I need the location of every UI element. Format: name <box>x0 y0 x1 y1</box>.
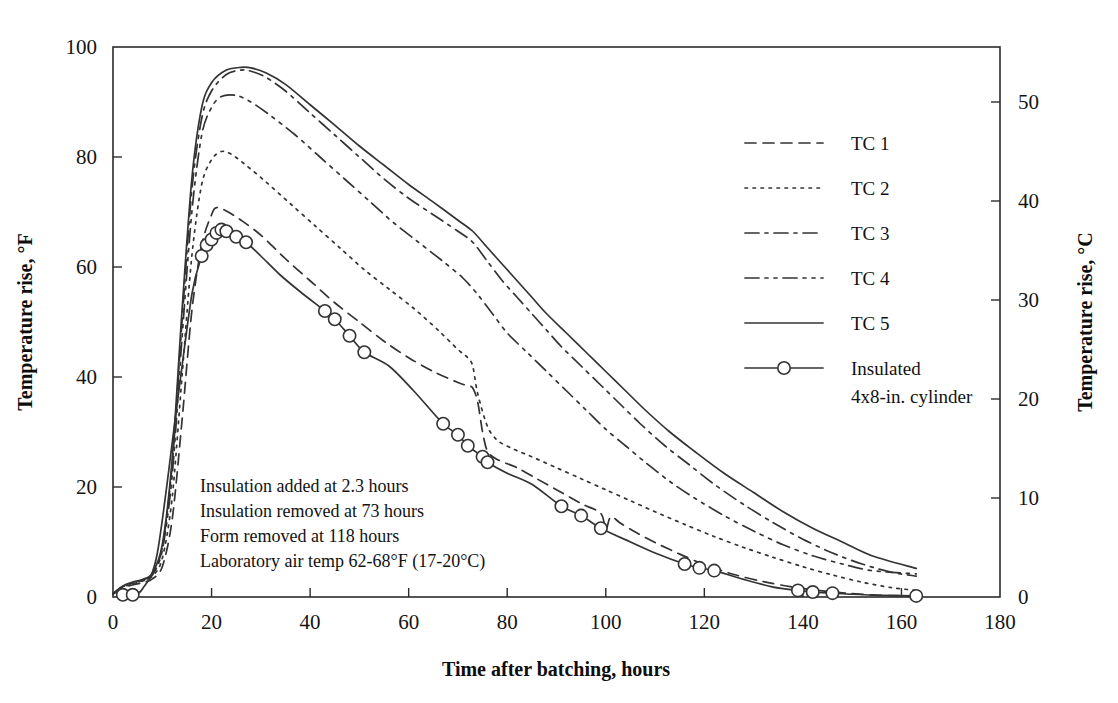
legend-label-5: TC 5 <box>851 313 890 334</box>
temperature-rise-chart: 020406080100120140160180 020406080100 01… <box>0 0 1118 703</box>
y-axis-right-tick-labels: 01020304050 <box>1018 90 1039 609</box>
y-tick-label-right: 20 <box>1018 387 1039 411</box>
legend-label-1: TC 1 <box>851 133 890 154</box>
data-point-marker <box>358 346 370 358</box>
legend-label-3: TC 3 <box>851 223 890 244</box>
data-point-marker <box>826 587 838 599</box>
y-tick-label-left: 20 <box>76 475 97 499</box>
legend-marker <box>778 362 790 374</box>
x-tick-label: 140 <box>787 610 819 634</box>
y-axis-left-ticks <box>113 157 122 487</box>
y-axis-left-tick-labels: 020406080100 <box>66 35 98 609</box>
annotation-line-4: Laboratory air temp 62-68°F (17-20°C) <box>200 551 485 572</box>
annotation-line-3: Form removed at 118 hours <box>200 526 399 546</box>
data-point-marker <box>792 584 804 596</box>
legend-label-4: TC 4 <box>851 268 890 289</box>
data-point-marker <box>807 586 819 598</box>
y-tick-label-right: 40 <box>1018 189 1039 213</box>
x-axis-title: Time after batching, hours <box>442 658 670 681</box>
data-point-marker <box>575 509 587 521</box>
annotation-line-1: Insulation added at 2.3 hours <box>200 476 408 496</box>
data-point-marker <box>910 590 922 602</box>
legend-label-6: Insulated <box>851 358 921 379</box>
x-tick-label: 180 <box>984 610 1016 634</box>
y-axis-right-ticks <box>991 102 1000 498</box>
data-point-marker <box>693 562 705 574</box>
y-tick-label-left: 0 <box>87 585 98 609</box>
y-axis-title-left: Temperature rise, °F <box>14 233 37 410</box>
y-tick-label-left: 40 <box>76 365 97 389</box>
data-point-marker <box>329 313 341 325</box>
y-tick-label-left: 80 <box>76 145 97 169</box>
annotation-block: Insulation added at 2.3 hoursInsulation … <box>200 476 485 572</box>
legend-label-2: TC 2 <box>851 178 890 199</box>
y-tick-label-right: 0 <box>1018 585 1029 609</box>
x-tick-label: 80 <box>497 610 518 634</box>
y-tick-label-right: 10 <box>1018 486 1039 510</box>
x-tick-label: 40 <box>300 610 321 634</box>
data-point-marker <box>240 236 252 248</box>
x-axis-tick-labels: 020406080100120140160180 <box>108 610 1016 634</box>
y-tick-label-left: 100 <box>66 35 98 59</box>
data-point-marker <box>127 589 139 601</box>
annotation-line-2: Insulation removed at 73 hours <box>200 501 424 521</box>
x-tick-label: 100 <box>590 610 622 634</box>
y-tick-label-right: 30 <box>1018 288 1039 312</box>
x-tick-label: 60 <box>398 610 419 634</box>
x-tick-label: 160 <box>886 610 918 634</box>
x-tick-label: 0 <box>108 610 119 634</box>
data-point-marker <box>437 418 449 430</box>
legend: TC 1TC 2TC 3TC 4TC 5Insulated4x8-in. cyl… <box>745 133 973 407</box>
data-point-marker <box>708 564 720 576</box>
x-tick-label: 120 <box>689 610 721 634</box>
data-point-marker <box>452 429 464 441</box>
y-tick-label-left: 60 <box>76 255 97 279</box>
data-point-marker <box>481 456 493 468</box>
data-point-marker <box>555 500 567 512</box>
data-point-marker <box>462 440 474 452</box>
data-point-marker <box>343 330 355 342</box>
x-tick-label: 20 <box>201 610 222 634</box>
y-tick-label-right: 50 <box>1018 90 1039 114</box>
legend-label-6b: 4x8-in. cylinder <box>851 386 973 407</box>
y-axis-title-right: Temperature rise, °C <box>1074 232 1097 412</box>
data-point-marker <box>678 558 690 570</box>
chart-container: 020406080100120140160180 020406080100 01… <box>0 0 1118 703</box>
data-point-marker <box>595 522 607 534</box>
